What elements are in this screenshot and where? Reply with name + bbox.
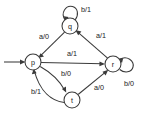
node-p-label: p <box>31 58 35 67</box>
edge-label-t-to-r: a/0 <box>94 83 104 92</box>
edge-q-to-p: a/0 <box>38 32 65 59</box>
edge-t-to-r: a/0 <box>78 70 108 95</box>
edge-p-to-t: b/0 <box>40 67 71 93</box>
fsm-diagram-svg: a/0 a/1 a/1 b/0 b/1 <box>0 0 144 118</box>
edge-t-to-r-arrow-head <box>103 70 109 76</box>
fsm-diagram-canvas: a/0 a/1 a/1 b/0 b/1 <box>0 0 144 118</box>
node-r[interactable]: r <box>105 56 121 72</box>
edge-p-to-r-line <box>41 63 103 64</box>
node-t[interactable]: t <box>64 92 80 108</box>
edge-p-to-r: a/1 <box>41 49 105 67</box>
edge-label-p-to-t: b/0 <box>61 69 71 78</box>
node-p[interactable]: p <box>25 54 41 70</box>
edge-label-p-to-r: a/1 <box>67 49 77 58</box>
edge-p-to-r-arrow-head <box>99 62 105 67</box>
edge-label-q-to-p: a/0 <box>39 32 49 41</box>
edge-label-q-self-loop: b/1 <box>81 5 91 14</box>
edge-r-to-q: a/1 <box>75 30 107 58</box>
edge-label-r-self-loop: b/0 <box>124 79 134 88</box>
node-t-label: t <box>71 96 73 105</box>
edge-label-t-to-p: b/1 <box>31 87 41 96</box>
edge-t-to-p: b/1 <box>31 69 64 103</box>
node-q-label: q <box>68 22 72 31</box>
node-q[interactable]: q <box>62 18 78 34</box>
start-arrow <box>4 60 25 65</box>
edge-label-r-to-q: a/1 <box>96 31 106 40</box>
